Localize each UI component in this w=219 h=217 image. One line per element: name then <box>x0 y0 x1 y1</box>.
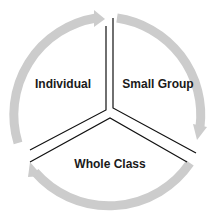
cycle-diagram <box>0 0 219 217</box>
arrow-small-group-to-whole-class <box>117 18 201 127</box>
arrowhead-left-icon <box>28 162 42 177</box>
segment-label-whole-class: Whole Class <box>74 157 145 171</box>
segment-label-small-group: Small Group <box>122 77 193 91</box>
arrowhead-right-icon <box>193 124 207 140</box>
divider-whole-class <box>30 118 187 162</box>
segment-label-individual: Individual <box>35 77 91 91</box>
arrowhead-top-icon <box>94 10 105 27</box>
